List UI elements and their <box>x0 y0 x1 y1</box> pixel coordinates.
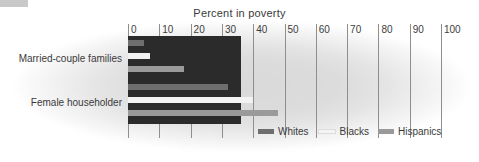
gridline-100 <box>441 24 442 138</box>
bar-blacks-group-1 <box>128 97 253 103</box>
x-tick-label-50: 50 <box>288 24 299 35</box>
bar-hispanics-group-0 <box>128 66 184 72</box>
chart-plot: Percent in poverty 010203040506070809010… <box>0 0 479 162</box>
bar-hispanics-group-1 <box>128 110 278 116</box>
gridline-40 <box>253 24 254 138</box>
legend-swatch-whites <box>258 129 274 134</box>
gridline-60 <box>316 24 317 138</box>
legend-swatch-hispanics <box>378 129 394 134</box>
legend-item-blacks: Blacks <box>318 126 369 137</box>
x-tick-label-60: 60 <box>319 24 330 35</box>
group-label-married-couple-families: Married-couple families <box>8 53 122 64</box>
legend-label-hispanics: Hispanics <box>398 126 441 137</box>
x-tick-label-70: 70 <box>350 24 361 35</box>
x-tick-label-0: 0 <box>131 24 137 35</box>
bar-whites-group-0 <box>128 40 144 46</box>
x-tick-label-20: 20 <box>194 24 205 35</box>
gridline-90 <box>410 24 411 138</box>
gridline-50 <box>285 24 286 138</box>
legend-item-hispanics: Hispanics <box>378 126 441 137</box>
legend-label-blacks: Blacks <box>340 126 369 137</box>
x-tick-label-10: 10 <box>162 24 173 35</box>
x-tick-label-90: 90 <box>413 24 424 35</box>
legend-label-whites: Whites <box>278 126 309 137</box>
chart-legend: Whites Blacks Hispanics <box>258 126 441 137</box>
chart-title: Percent in poverty <box>0 7 479 19</box>
x-tick-label-100: 100 <box>444 24 461 35</box>
gridline-80 <box>378 24 379 138</box>
group-label-female-householder: Female householder <box>8 97 122 108</box>
x-tick-label-40: 40 <box>256 24 267 35</box>
legend-swatch-blacks <box>318 129 336 134</box>
bar-blacks-group-0 <box>128 53 150 59</box>
bar-whites-group-1 <box>128 84 228 90</box>
gridline-70 <box>347 24 348 138</box>
legend-item-whites: Whites <box>258 126 309 137</box>
x-tick-label-30: 30 <box>225 24 236 35</box>
figure-container: Percent in poverty 010203040506070809010… <box>0 0 479 162</box>
x-tick-label-80: 80 <box>381 24 392 35</box>
